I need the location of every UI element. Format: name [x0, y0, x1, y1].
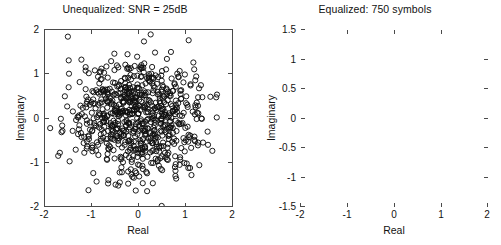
xticklabel-unequalized-4: 2 [229, 209, 235, 220]
xticklabel-equalized-0: -2 [296, 209, 305, 220]
yticklabel-unequalized-3: -1 [20, 157, 39, 168]
ytick-unequalized-4 [45, 206, 49, 207]
xticklabel-unequalized-2: 0 [135, 209, 141, 220]
xtick-equalized-3 [441, 203, 442, 207]
ytick-equalized-6 [301, 206, 305, 207]
ytick-equalized-1 [301, 59, 305, 60]
xtick-equalized-1 [347, 203, 348, 207]
ytick-right-equalized-3 [484, 118, 488, 119]
ytick-unequalized-1 [45, 73, 49, 74]
yticklabel-unequalized-1: 1 [20, 68, 39, 79]
ytick-unequalized-0 [45, 29, 49, 30]
ytick-right-equalized-4 [484, 147, 488, 148]
ytick-unequalized-3 [45, 162, 49, 163]
yaxis-label-unequalized: Imaginary [14, 95, 26, 141]
panel-unequalized: Unequalized: SNR = 25dB -2 -1 0 1 2 2 [0, 0, 250, 245]
yticklabel-unequalized-0: 2 [20, 24, 39, 35]
xtick-unequalized-4 [232, 203, 233, 207]
ytick-right-equalized-2 [484, 88, 488, 89]
xticklabel-unequalized-1: -1 [87, 209, 96, 220]
xtick-top-equalized-3 [441, 30, 442, 34]
xticklabel-unequalized-0: -2 [40, 209, 49, 220]
xtick-top-unequalized-1 [91, 30, 92, 34]
xtick-top-equalized-2 [394, 30, 395, 34]
yticklabel-equalized-2: 0.5 [271, 83, 296, 94]
xticklabel-equalized-2: 0 [391, 209, 397, 220]
xtick-top-equalized-1 [347, 30, 348, 34]
ytick-equalized-4 [301, 147, 305, 148]
yticklabel-equalized-6: -1.5 [271, 201, 296, 212]
panel-title-equalized: Equalized: 750 symbols [250, 3, 500, 16]
xticklabel-equalized-1: -1 [343, 209, 352, 220]
ytick-right-equalized-1 [484, 59, 488, 60]
ytick-equalized-3 [301, 118, 305, 119]
xticklabel-equalized-4: 2 [484, 209, 490, 220]
scatter-plot-unequalized [45, 30, 232, 206]
ytick-right-unequalized-2 [228, 118, 232, 119]
scatter-points-unequalized [45, 30, 232, 206]
panel-title-unequalized: Unequalized: SNR = 25dB [0, 3, 250, 16]
xaxis-label-equalized: Real [383, 224, 405, 236]
xtick-top-unequalized-2 [138, 30, 139, 34]
yticklabel-equalized-5: -1 [271, 172, 296, 183]
yticklabel-unequalized-4: -2 [20, 201, 39, 212]
yaxis-label-equalized: Imaginary [265, 95, 277, 141]
ytick-unequalized-2 [45, 118, 49, 119]
yticklabel-equalized-0: 1.5 [271, 24, 296, 35]
ytick-right-equalized-5 [484, 177, 488, 178]
xtick-unequalized-3 [185, 203, 186, 207]
figure-canvas: Unequalized: SNR = 25dB -2 -1 0 1 2 2 [0, 0, 501, 245]
xtick-equalized-2 [394, 203, 395, 207]
ytick-equalized-2 [301, 88, 305, 89]
ytick-right-unequalized-1 [228, 73, 232, 74]
xtick-unequalized-2 [138, 203, 139, 207]
ytick-equalized-5 [301, 177, 305, 178]
ytick-right-unequalized-3 [228, 162, 232, 163]
xticklabel-unequalized-3: 1 [182, 209, 188, 220]
xtick-top-unequalized-3 [185, 30, 186, 34]
yticklabel-equalized-4: -0.5 [271, 142, 296, 153]
panel-equalized: Equalized: 750 symbols -2 -1 0 1 [250, 0, 500, 245]
xtick-equalized-4 [487, 203, 488, 207]
xtick-unequalized-1 [91, 203, 92, 207]
yticklabel-equalized-1: 1 [271, 54, 296, 65]
ytick-equalized-0 [301, 29, 305, 30]
xaxis-label-unequalized: Real [127, 224, 149, 236]
xticklabel-equalized-3: 1 [438, 209, 444, 220]
axes-frame-unequalized [44, 29, 233, 207]
